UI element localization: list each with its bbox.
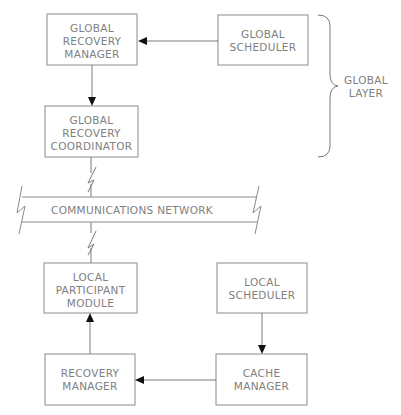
- box-label-line: SCHEDULER: [229, 289, 296, 301]
- global-layer-brace: GLOBAL LAYER: [318, 15, 388, 157]
- arrow-global-scheduler-to-global-recovery-manager: [138, 37, 218, 45]
- box-label-line: LOCAL: [244, 276, 280, 288]
- box-label-line: MANAGER: [62, 380, 117, 392]
- box-label-line: LOCAL: [73, 271, 109, 283]
- architecture-diagram: GLOBAL RECOVERY MANAGER GLOBAL SCHEDULER…: [0, 0, 401, 415]
- box-label-line: GLOBAL: [70, 114, 114, 126]
- box-recovery-manager: RECOVERY MANAGER: [45, 354, 135, 405]
- box-label-line: GLOBAL: [70, 22, 114, 34]
- box-label-line: RECOVERY: [62, 127, 121, 139]
- arrow-cache-manager-to-recovery-manager: [135, 376, 216, 384]
- network-label: COMMUNICATIONS NETWORK: [51, 204, 214, 216]
- lightning-link-coordinator-to-network: [88, 157, 96, 197]
- box-cache-manager: CACHE MANAGER: [216, 354, 307, 405]
- global-layer-label-line: GLOBAL: [344, 74, 388, 86]
- arrow-global-recovery-manager-to-coordinator: [88, 65, 96, 106]
- box-global-recovery-manager: GLOBAL RECOVERY MANAGER: [47, 14, 137, 65]
- lightning-link-network-to-participant: [88, 222, 96, 263]
- network-left-break: [17, 186, 25, 234]
- box-label-line: COORDINATOR: [51, 140, 133, 152]
- box-global-scheduler: GLOBAL SCHEDULER: [218, 15, 308, 65]
- arrow-local-scheduler-to-cache-manager: [258, 313, 266, 354]
- box-label-line: RECOVERY: [61, 367, 120, 379]
- box-label-line: MODULE: [67, 297, 114, 309]
- box-label-line: PARTICIPANT: [56, 284, 126, 296]
- box-label-line: SCHEDULER: [230, 41, 297, 53]
- box-label-line: GLOBAL: [241, 28, 285, 40]
- global-layer-label-line: LAYER: [349, 87, 383, 99]
- box-local-scheduler: LOCAL SCHEDULER: [217, 263, 307, 313]
- box-global-recovery-coordinator: GLOBAL RECOVERY COORDINATOR: [45, 106, 138, 157]
- box-label-line: RECOVERY: [63, 35, 122, 47]
- box-local-participant-module: LOCAL PARTICIPANT MODULE: [44, 263, 137, 313]
- network-right-break: [253, 186, 261, 234]
- box-label-line: MANAGER: [64, 48, 119, 60]
- box-label-line: MANAGER: [234, 380, 289, 392]
- communications-network: COMMUNICATIONS NETWORK: [17, 186, 261, 234]
- arrow-recovery-manager-to-local-participant-module: [86, 313, 94, 354]
- box-label-line: CACHE: [243, 367, 281, 379]
